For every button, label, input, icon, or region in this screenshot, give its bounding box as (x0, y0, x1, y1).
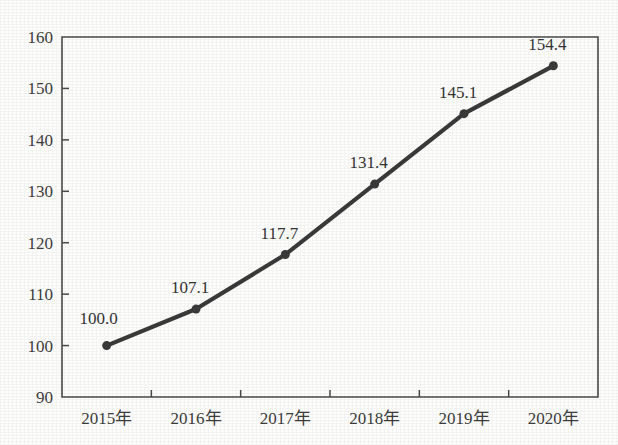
x-axis-category-labels: 2015年2016年2017年2018年2019年2020年 (81, 409, 579, 428)
line-chart: 90100110120130140150160 2015年2016年2017年2… (0, 0, 618, 445)
x-axis-category-label: 2018年 (349, 409, 400, 428)
y-axis-tick-label: 90 (36, 388, 53, 407)
data-point-value-label: 131.4 (350, 153, 389, 172)
data-point-value-label: 145.1 (439, 83, 477, 102)
y-axis-tick-label: 130 (28, 182, 54, 201)
x-axis-tick-marks (151, 390, 508, 397)
x-axis-category-label: 2015年 (81, 409, 132, 428)
y-axis-tick-label: 100 (28, 337, 54, 356)
data-line-series (107, 66, 554, 346)
y-axis-tick-labels: 90100110120130140150160 (28, 28, 54, 407)
data-point-marker (549, 61, 558, 70)
y-axis-tick-label: 160 (28, 28, 54, 47)
x-axis-category-label: 2017年 (260, 409, 311, 428)
y-axis-tick-label: 140 (28, 131, 54, 150)
y-axis-tick-label: 120 (28, 234, 54, 253)
data-point-value-labels: 100.0107.1117.7131.4145.1154.4 (80, 35, 567, 328)
x-axis-category-label: 2019年 (439, 409, 490, 428)
data-point-value-label: 117.7 (261, 224, 299, 243)
chart-figure: · · · · · ·· · · · · · 90100110120130140… (0, 0, 618, 445)
data-point-marker (192, 305, 201, 314)
y-axis-tick-label: 110 (28, 285, 53, 304)
data-point-value-label: 107.1 (171, 278, 209, 297)
data-point-marker (460, 109, 469, 118)
data-point-marker (102, 341, 111, 350)
data-point-markers (102, 61, 558, 350)
x-axis-category-label: 2016年 (171, 409, 222, 428)
data-point-value-label: 154.4 (528, 35, 567, 54)
y-axis-tick-label: 150 (28, 79, 54, 98)
data-point-marker (281, 250, 290, 259)
data-point-value-label: 100.0 (80, 309, 118, 328)
y-axis-tick-marks (62, 88, 69, 345)
data-point-marker (370, 180, 379, 189)
x-axis-category-label: 2020年 (528, 409, 579, 428)
